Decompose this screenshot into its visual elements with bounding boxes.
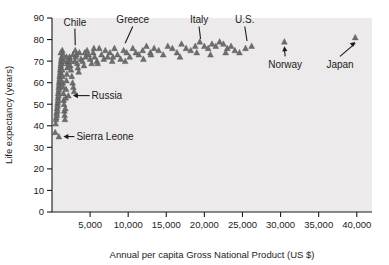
x-tick-label: 5,000	[78, 219, 102, 230]
annotation-label: Norway	[268, 59, 302, 70]
scatter-plot-figure: 01020304050607080905,00010,00015,00020,0…	[0, 0, 389, 265]
x-axis-title: Annual per capita Gross National Product…	[110, 249, 315, 260]
x-tick-label: 35,000	[304, 219, 333, 230]
x-tick-label: 25,000	[228, 219, 257, 230]
annotation-label: Japan	[326, 59, 353, 70]
annotation-label: U.S.	[235, 14, 254, 25]
x-tick-label: 10,000	[114, 219, 143, 230]
y-axis-title: Life expectancy (years)	[3, 66, 14, 164]
annotation-label: Sierra Leone	[76, 131, 134, 142]
y-tick-label: 30	[33, 142, 44, 153]
x-tick-label: 40,000	[342, 219, 371, 230]
y-tick-label: 0	[39, 206, 44, 217]
x-tick-label: 15,000	[152, 219, 181, 230]
x-tick-label: 20,000	[190, 219, 219, 230]
y-tick-label: 50	[33, 99, 44, 110]
y-tick-label: 70	[33, 56, 44, 67]
annotation-label: Chile	[63, 17, 86, 28]
y-tick-label: 10	[33, 185, 44, 196]
y-tick-label: 80	[33, 34, 44, 45]
annotation-label: Italy	[190, 14, 208, 25]
y-tick-label: 40	[33, 120, 44, 131]
annotation-label: Russia	[92, 90, 123, 101]
chart-canvas: 01020304050607080905,00010,00015,00020,0…	[0, 0, 389, 265]
y-tick-label: 90	[33, 12, 44, 23]
annotation-label: Greece	[116, 14, 149, 25]
y-tick-label: 20	[33, 163, 44, 174]
x-tick-label: 30,000	[266, 219, 295, 230]
y-tick-label: 60	[33, 77, 44, 88]
